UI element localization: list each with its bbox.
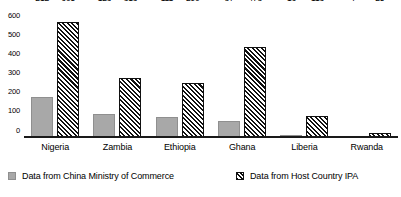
category-label: Liberia — [273, 140, 335, 154]
bar-value-label: 290 — [186, 0, 200, 2]
bar-value-label: 111 — [161, 0, 173, 2]
bar-group: 123 313 — [86, 4, 148, 138]
bar-value-label: 478 — [248, 0, 262, 2]
bar-series-1[interactable] — [244, 47, 266, 139]
bar-group: 7 25 — [336, 4, 398, 138]
bar-series-0[interactable] — [93, 114, 115, 138]
bar-series-1[interactable] — [119, 78, 141, 138]
bar-value-label: 212 — [35, 0, 49, 2]
y-tick-label: 600 — [8, 12, 20, 20]
bar-series-0[interactable] — [156, 117, 178, 138]
legend-label: Data from Host Country IPA — [250, 172, 358, 181]
legend-swatch-icon — [8, 172, 16, 180]
y-tick-label: 100 — [8, 108, 20, 116]
category-label: Ethiopia — [149, 140, 211, 154]
bar-series-1[interactable] — [182, 83, 204, 139]
bar-wrapper: 313 — [119, 4, 141, 138]
category-label: Zambia — [86, 140, 148, 154]
chart-legend: Data from China Ministry of Commerce Dat… — [0, 166, 401, 186]
x-axis-category-labels: Nigeria Zambia Ethiopia Ghana Liberia Rw… — [24, 140, 398, 154]
bar-value-label: 25 — [375, 0, 384, 2]
bar-series-1[interactable] — [57, 22, 79, 138]
bar-wrapper: 290 — [182, 4, 204, 138]
category-label: Rwanda — [336, 140, 398, 154]
bar-group: 16 113 — [273, 4, 335, 138]
legend-item-host-country-ipa[interactable]: Data from Host Country IPA — [236, 172, 358, 181]
bar-wrapper: 16 — [280, 4, 302, 138]
bar-value-label: 605 — [61, 0, 75, 2]
y-tick-label: 200 — [8, 88, 20, 96]
plot-area: 0 100 200 300 400 500 600 700 212 605 — [24, 4, 398, 138]
bar-wrapper: 478 — [244, 4, 266, 138]
bar-value-label: 113 — [311, 0, 324, 2]
x-axis-line — [24, 136, 398, 138]
legend-label: Data from China Ministry of Commerce — [22, 172, 174, 181]
bar-value-label: 87 — [225, 0, 234, 2]
bar-groups: 212 605 123 313 — [24, 4, 398, 138]
y-tick-label: 500 — [8, 31, 20, 39]
bar-group: 212 605 — [24, 4, 86, 138]
bar-value-label: 313 — [124, 0, 138, 2]
bar-series-1[interactable] — [306, 116, 328, 138]
legend-swatch-icon — [236, 172, 244, 180]
bar-wrapper: 113 — [306, 4, 328, 138]
bar-wrapper: 25 — [369, 4, 391, 138]
category-label: Nigeria — [24, 140, 86, 154]
bar-value-label: 7 — [352, 0, 357, 2]
bar-wrapper: 123 — [93, 4, 115, 138]
y-tick-label: 300 — [8, 69, 20, 77]
y-tick-label: 0 — [16, 127, 20, 135]
bar-wrapper: 7 — [343, 4, 365, 138]
bar-value-label: 16 — [287, 0, 296, 2]
bar-wrapper: 212 — [31, 4, 53, 138]
category-label: Ghana — [211, 140, 273, 154]
bar-group: 87 478 — [211, 4, 273, 138]
y-tick-label: 400 — [8, 50, 20, 58]
bar-group: 111 290 — [149, 4, 211, 138]
bar-value-label: 123 — [98, 0, 112, 2]
bar-wrapper: 111 — [156, 4, 178, 138]
bar-chart: 0 100 200 300 400 500 600 700 212 605 — [0, 0, 401, 197]
bar-wrapper: 605 — [57, 4, 79, 138]
bar-wrapper: 87 — [218, 4, 240, 138]
bar-series-0[interactable] — [31, 97, 53, 138]
legend-item-china-ministry[interactable]: Data from China Ministry of Commerce — [8, 172, 174, 181]
